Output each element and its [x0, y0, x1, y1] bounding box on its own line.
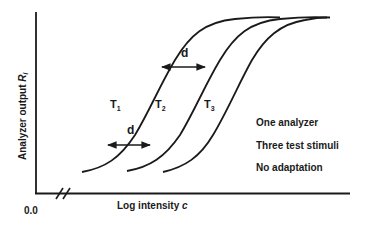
note-no-adaptation: No adaptation — [256, 162, 323, 173]
svg-text:T2: T2 — [155, 98, 166, 112]
label-t1: T1 — [110, 98, 121, 112]
svg-text:T3: T3 — [204, 98, 215, 112]
label-t2: T2 — [155, 98, 166, 112]
d-label-lower: d — [127, 123, 134, 137]
svg-text:T1: T1 — [110, 98, 121, 112]
y-axis-label: Analyzer output Ri — [17, 71, 29, 160]
label-t3: T3 — [204, 98, 215, 112]
chart: d d T1 T2 T3 One analyzer Three test sti… — [0, 0, 366, 226]
curve-t1 — [82, 17, 280, 172]
d-label-upper: d — [181, 46, 188, 60]
note-one-analyzer: One analyzer — [256, 117, 318, 128]
note-three-stimuli: Three test stimuli — [256, 140, 339, 151]
x-origin-label: 0.0 — [24, 205, 38, 216]
x-axis-label: Log intensity c — [117, 200, 188, 211]
